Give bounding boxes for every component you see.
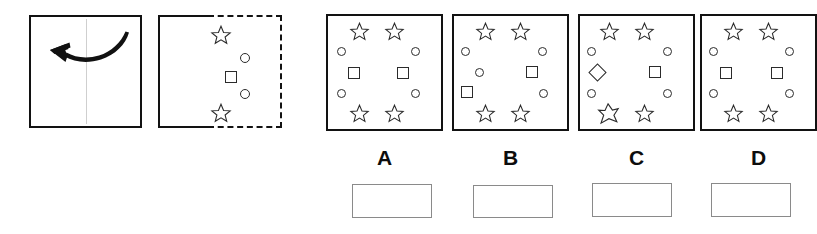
circle-middle-left-shape bbox=[475, 68, 484, 77]
circle-upper-right-shape bbox=[411, 47, 420, 56]
square-lower-left-shape bbox=[461, 86, 473, 98]
star-top-left-shape bbox=[350, 22, 369, 41]
diamond-middle-left-shape bbox=[588, 63, 606, 81]
option-label-d: D bbox=[700, 147, 817, 168]
option-c[interactable] bbox=[578, 14, 695, 131]
square-middle-right-shape bbox=[397, 67, 409, 79]
square-middle-right-shape bbox=[649, 66, 661, 78]
circle-upper-right-shape bbox=[785, 47, 794, 56]
star-top-left-shape bbox=[600, 22, 619, 41]
folded-paper-panel bbox=[158, 15, 282, 128]
circle-upper-left-shape bbox=[461, 47, 470, 56]
circle-lower-left-shape bbox=[587, 89, 596, 98]
circle-lower-right-shape bbox=[411, 89, 420, 98]
circle-upper-right-shape bbox=[663, 47, 672, 56]
answer-box-a[interactable] bbox=[352, 184, 432, 218]
star-top-right-shape bbox=[635, 22, 654, 41]
circle-lower-right-shape bbox=[539, 89, 548, 98]
answer-box-d[interactable] bbox=[711, 183, 791, 217]
circle-upper-shape bbox=[240, 53, 250, 63]
circle-lower-left-shape bbox=[709, 89, 718, 98]
star-top-shape bbox=[211, 25, 231, 45]
square-middle-right-shape bbox=[526, 66, 538, 78]
fold-instruction-panel bbox=[29, 15, 142, 128]
square-middle-shape bbox=[225, 71, 237, 83]
option-label-a: A bbox=[326, 147, 443, 168]
answer-box-b[interactable] bbox=[473, 185, 553, 218]
star-top-right-shape bbox=[385, 22, 404, 41]
hidden-half-dashed-outline bbox=[208, 15, 282, 128]
star-bottom-right-shape bbox=[511, 104, 530, 123]
answer-box-c[interactable] bbox=[592, 183, 672, 217]
option-label-c: C bbox=[578, 147, 695, 168]
circle-lower-left-shape bbox=[337, 89, 346, 98]
option-a[interactable] bbox=[326, 14, 443, 131]
star-bottom-shape bbox=[211, 103, 231, 123]
star-bottom-right-shape bbox=[635, 104, 654, 123]
square-middle-left-shape bbox=[348, 67, 360, 79]
star-top-left-shape bbox=[476, 22, 495, 41]
square-middle-right-shape bbox=[771, 67, 783, 79]
circle-upper-left-shape bbox=[709, 47, 718, 56]
star-skewed-bottom-left-shape bbox=[598, 103, 619, 124]
star-bottom-left-shape bbox=[476, 104, 495, 123]
star-top-right-shape bbox=[511, 22, 530, 41]
circle-lower-shape bbox=[240, 89, 250, 99]
circle-upper-left-shape bbox=[587, 47, 596, 56]
circle-upper-left-shape bbox=[337, 47, 346, 56]
star-top-right-shape bbox=[759, 22, 778, 41]
folded-flap-solid-half bbox=[158, 15, 210, 128]
circle-upper-right-shape bbox=[538, 47, 547, 56]
option-label-b: B bbox=[452, 147, 569, 168]
star-bottom-left-shape bbox=[724, 104, 743, 123]
star-bottom-left-shape bbox=[350, 104, 369, 123]
star-bottom-right-shape bbox=[385, 104, 404, 123]
star-top-left-shape bbox=[724, 22, 743, 41]
circle-lower-right-shape bbox=[663, 89, 672, 98]
star-bottom-right-shape bbox=[759, 104, 778, 123]
circle-lower-right-shape bbox=[785, 89, 794, 98]
option-b[interactable] bbox=[452, 14, 569, 131]
option-d[interactable] bbox=[700, 14, 817, 131]
curved-arrow-left-icon bbox=[45, 25, 129, 63]
square-middle-left-shape bbox=[720, 67, 732, 79]
